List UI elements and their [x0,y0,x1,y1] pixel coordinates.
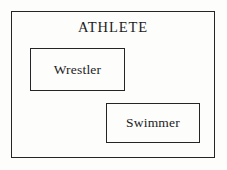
subset-rectangle-wrestler: Wrestler [30,48,125,91]
subset-rectangle-swimmer: Swimmer [106,103,200,143]
set-diagram-canvas: ATHLETE Wrestler Swimmer [0,0,227,170]
subset-label-swimmer: Swimmer [126,116,180,130]
universal-set-label: ATHLETE [12,20,214,35]
subset-label-wrestler: Wrestler [54,63,102,77]
